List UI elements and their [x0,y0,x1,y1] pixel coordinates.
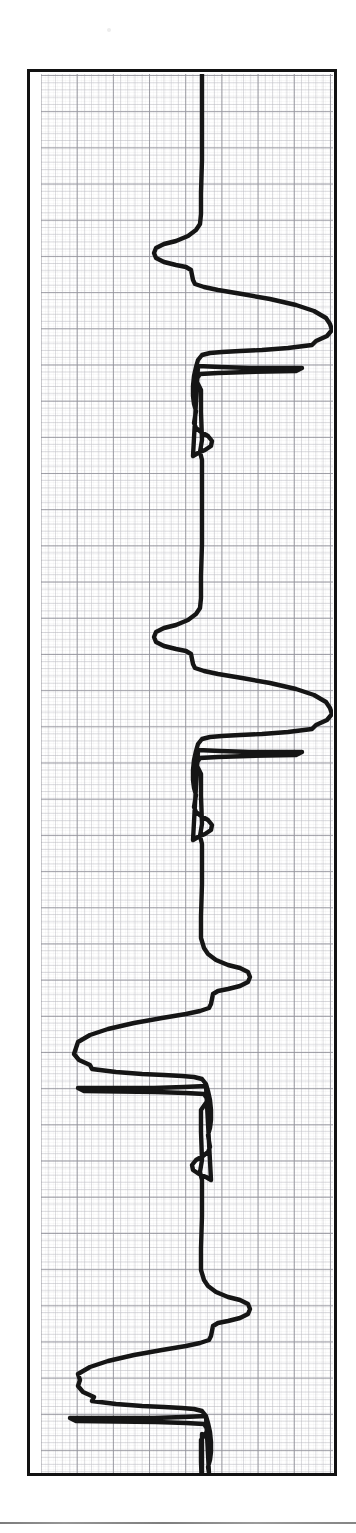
footer-divider-rule [0,1522,356,1524]
ecg-waveform-path [70,74,332,1473]
ecg-plot-area [41,74,333,1473]
ecg-chart-frame [27,69,337,1476]
page-sheet [0,0,356,1533]
scan-speck [107,28,111,32]
ecg-waveform-trace [41,74,333,1473]
